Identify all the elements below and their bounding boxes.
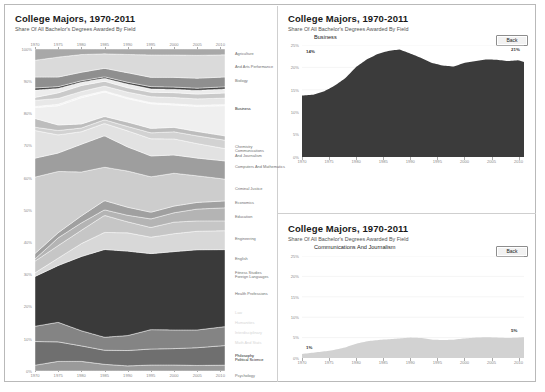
detail-x-tickmark xyxy=(356,358,357,361)
main-title: College Majors, 1970-2011 xyxy=(15,13,135,24)
detail-x-tickmark xyxy=(519,157,520,160)
detail-top-subtitle: Share Of All Bachelor's Degrees Awarded … xyxy=(288,26,408,32)
detail-x-tickmark xyxy=(437,157,438,160)
detail-x-tick: 1990 xyxy=(406,159,415,164)
detail-x-tickmark xyxy=(519,358,520,361)
legend-item-fitness-studies[interactable]: Fitness Studies Foreign Languages xyxy=(235,271,269,280)
area-series-communications-and-journalism[interactable] xyxy=(302,337,524,358)
business-area-chart[interactable] xyxy=(302,45,524,157)
detail-x-tickmark xyxy=(492,157,493,160)
main-y-tick: 30% xyxy=(7,272,32,277)
detail-x-tick: 2010 xyxy=(514,159,523,164)
main-y-tick: 70% xyxy=(7,143,32,148)
legend-item-education[interactable]: Education xyxy=(235,215,252,219)
detail-x-tick: 1970 xyxy=(297,159,306,164)
detail-y-tick: 0% xyxy=(280,356,299,361)
detail-y-tick: 15% xyxy=(280,295,299,300)
main-x-tick: 1990 xyxy=(123,373,132,378)
detail-y-tick: 10% xyxy=(280,110,299,115)
detail-x-tickmark xyxy=(464,358,465,361)
detail-x-tick: 2005 xyxy=(487,159,496,164)
legend-item-and-arts-performance[interactable]: And Arts Performance xyxy=(235,65,273,69)
legend-item-agriculture[interactable]: Agriculture xyxy=(235,52,254,56)
detail-x-tickmark xyxy=(302,358,303,361)
detail-x-tickmark xyxy=(410,358,411,361)
main-y-tick: 100% xyxy=(7,47,32,52)
detail-top-back-button[interactable]: Back xyxy=(496,35,528,46)
legend-item-psychology[interactable]: Psychology xyxy=(235,374,255,378)
detail-x-tick: 1995 xyxy=(433,360,442,365)
legend-item-english[interactable]: English xyxy=(235,257,248,261)
detail-x-tickmark xyxy=(410,157,411,160)
main-x-tick: 2000 xyxy=(169,373,178,378)
main-legend: AgricultureAnd Arts PerformanceBiologyBu… xyxy=(233,49,277,371)
main-y-tick: 20% xyxy=(7,304,32,309)
detail-y-tick: 20% xyxy=(280,274,299,279)
detail-y-tick: 5% xyxy=(280,132,299,137)
legend-item-engineering[interactable]: Engineering xyxy=(235,237,256,241)
detail-bottom-end-annotation: 5% xyxy=(511,328,517,333)
main-x-tick: 1980 xyxy=(77,373,86,378)
detail-bottom-subtitle: Share Of All Bachelor's Degrees Awarded … xyxy=(288,236,408,242)
main-x-tick: 1970 xyxy=(30,373,39,378)
legend-item-criminal-justice[interactable]: Criminal Justice xyxy=(235,187,262,191)
app-window: College Majors, 1970-2011 Share Of All B… xyxy=(4,4,536,382)
detail-y-tick: 20% xyxy=(280,65,299,70)
detail-x-tick: 1985 xyxy=(379,159,388,164)
detail-top-end-annotation: 21% xyxy=(511,47,520,52)
legend-item-business[interactable]: Business xyxy=(235,107,251,111)
detail-top-series-label: Business xyxy=(314,34,337,40)
area-series-business[interactable] xyxy=(302,49,524,157)
main-x-tick: 1995 xyxy=(146,373,155,378)
detail-x-tick: 2010 xyxy=(514,360,523,365)
detail-x-tickmark xyxy=(302,157,303,160)
detail-bottom-start-annotation: 1% xyxy=(306,345,312,350)
detail-x-tickmark xyxy=(356,157,357,160)
detail-y-tick: 0% xyxy=(280,155,299,160)
detail-y-tick: 25% xyxy=(280,43,299,48)
legend-item-chemistry[interactable]: Chemistry Communications And Journalism xyxy=(235,145,264,158)
detail-y-tick: 5% xyxy=(280,335,299,340)
legend-item-math-and-stats[interactable]: Math And Stats xyxy=(235,341,261,345)
detail-x-tick: 1985 xyxy=(379,360,388,365)
detail-x-tickmark xyxy=(383,157,384,160)
detail-x-tickmark xyxy=(329,358,330,361)
legend-item-interdisciplinary[interactable]: Interdisciplinary xyxy=(235,331,262,335)
detail-x-tickmark xyxy=(464,157,465,160)
legend-item-law[interactable]: Law xyxy=(235,311,242,315)
detail-x-tickmark xyxy=(437,358,438,361)
detail-y-tick: 25% xyxy=(280,254,299,259)
detail-bottom-back-button[interactable]: Back xyxy=(496,246,528,257)
legend-item-economics[interactable]: Economics xyxy=(235,201,254,205)
main-x-tick: 1985 xyxy=(100,373,109,378)
detail-x-tick: 1995 xyxy=(433,159,442,164)
detail-x-tick: 2005 xyxy=(487,360,496,365)
main-y-tick: 60% xyxy=(7,176,32,181)
legend-item-health-professions[interactable]: Health Professions xyxy=(235,292,268,296)
main-y-tick: 0% xyxy=(7,369,32,374)
legend-item-biology[interactable]: Biology xyxy=(235,79,248,83)
detail-x-tick: 1970 xyxy=(297,360,306,365)
detail-x-tick: 1980 xyxy=(352,360,361,365)
legend-item-humanities[interactable]: Humanities xyxy=(235,321,254,325)
detail-y-tick: 10% xyxy=(280,315,299,320)
detail-x-tick: 1980 xyxy=(352,159,361,164)
stacked-area-chart[interactable] xyxy=(35,49,225,371)
detail-x-tick: 1975 xyxy=(325,360,334,365)
main-subtitle: Share Of All Bachelor's Degrees Awarded … xyxy=(15,26,135,32)
main-x-tick: 1975 xyxy=(54,373,63,378)
main-x-tick: 2005 xyxy=(193,373,202,378)
communications-area-chart[interactable] xyxy=(302,256,524,358)
detail-x-tick: 1990 xyxy=(406,360,415,365)
main-y-tick: 50% xyxy=(7,208,32,213)
detail-top-panel: College Majors, 1970-2011 Share Of All B… xyxy=(278,5,536,213)
detail-x-tickmark xyxy=(329,157,330,160)
main-y-tick: 10% xyxy=(7,337,32,342)
legend-item-philosophy[interactable]: Philosophy Political Science xyxy=(235,354,263,363)
detail-bottom-title: College Majors, 1970-2011 xyxy=(288,223,408,234)
detail-x-tick: 2000 xyxy=(460,360,469,365)
detail-x-tick: 2000 xyxy=(460,159,469,164)
main-x-tick: 2010 xyxy=(216,373,225,378)
main-y-tick: 90% xyxy=(7,79,32,84)
main-y-tick: 80% xyxy=(7,111,32,116)
